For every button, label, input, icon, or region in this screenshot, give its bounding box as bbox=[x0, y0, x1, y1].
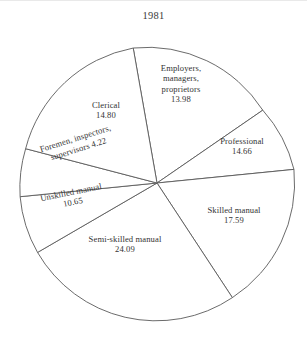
pie-chart-svg bbox=[0, 0, 307, 340]
slice-label-name: Professional bbox=[196, 136, 288, 146]
slice-label-clerical: Clerical 14.80 bbox=[67, 100, 145, 121]
slice-label-name: Skilled manual bbox=[186, 205, 282, 215]
pie-chart-figure: 1981 Employers, managers, proprietors 13… bbox=[0, 0, 307, 340]
slice-label-employers-managers-proprietors: Employers, managers, proprietors 13.98 bbox=[146, 63, 216, 105]
slice-value: 17.59 bbox=[186, 215, 282, 225]
slice-value: 24.09 bbox=[58, 244, 192, 254]
slice-label-skilled-manual: Skilled manual 17.59 bbox=[186, 205, 282, 226]
slice-value: 14.66 bbox=[196, 146, 288, 156]
slice-label-name: Clerical bbox=[67, 100, 145, 110]
slice-label-name: Semi-skilled manual bbox=[58, 234, 192, 244]
slice-label-professional: Professional 14.66 bbox=[196, 136, 288, 157]
slice-value: 14.80 bbox=[67, 110, 145, 120]
slice-label-line-2: managers, bbox=[146, 73, 216, 83]
slice-label-line-1: Employers, bbox=[146, 63, 216, 73]
slice-label-line-3: proprietors bbox=[146, 84, 216, 94]
slice-label-semi-skilled-manual: Semi-skilled manual 24.09 bbox=[58, 234, 192, 255]
slice-value: 13.98 bbox=[146, 94, 216, 104]
